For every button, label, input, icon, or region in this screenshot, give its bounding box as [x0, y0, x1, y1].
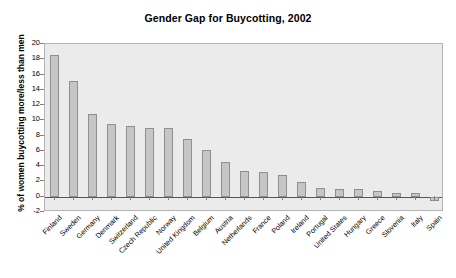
y-tick-label: 14 [10, 85, 40, 93]
y-tick-mark [40, 211, 44, 212]
y-tick-mark [40, 74, 44, 75]
bar [164, 128, 174, 197]
y-tick-mark [40, 180, 44, 181]
y-tick-label: 2 [10, 176, 40, 184]
x-tick-mark [434, 196, 435, 200]
x-tick-mark [415, 196, 416, 200]
y-tick-mark [40, 43, 44, 44]
y-tick-mark [40, 104, 44, 105]
x-tick-mark [396, 196, 397, 200]
bar [202, 150, 212, 197]
x-tick-mark [244, 196, 245, 200]
x-tick-mark [130, 196, 131, 200]
y-tick-mark [40, 150, 44, 151]
y-tick-label: 6 [10, 146, 40, 154]
x-tick-mark [54, 196, 55, 200]
chart-title: Gender Gap for Buycotting, 2002 [0, 12, 456, 24]
bar [126, 126, 136, 197]
bar [88, 114, 98, 196]
x-tick-mark [263, 196, 264, 200]
y-tick-mark [40, 119, 44, 120]
bar [69, 81, 79, 196]
y-tick-mark [40, 89, 44, 90]
bar [221, 162, 231, 197]
x-tick-mark [111, 196, 112, 200]
x-tick-mark [282, 196, 283, 200]
y-tick-label: 16 [10, 70, 40, 78]
bar [145, 128, 155, 197]
x-tick-mark [92, 196, 93, 200]
bar [107, 124, 117, 197]
x-tick-mark [225, 196, 226, 200]
plot-area [44, 43, 443, 211]
bar [259, 172, 269, 197]
x-tick-mark [339, 196, 340, 200]
y-tick-label: -2 [10, 207, 40, 215]
x-tick-mark [320, 196, 321, 200]
bar-chart: Gender Gap for Buycotting, 2002 % of wom… [0, 0, 456, 278]
bar [50, 55, 60, 197]
y-tick-label: 4 [10, 161, 40, 169]
x-tick-mark [358, 196, 359, 200]
y-tick-mark [40, 135, 44, 136]
x-tick-mark [206, 196, 207, 200]
bar [297, 182, 307, 197]
y-tick-label: 8 [10, 131, 40, 139]
x-tick-mark [187, 196, 188, 200]
bar [183, 139, 193, 196]
bar [240, 171, 250, 197]
x-tick-mark [377, 196, 378, 200]
x-tick-mark [168, 196, 169, 200]
y-tick-mark [40, 165, 44, 166]
y-tick-mark [40, 196, 44, 197]
y-tick-label: 0 [10, 192, 40, 200]
y-tick-label: 20 [10, 39, 40, 47]
y-tick-label: 18 [10, 54, 40, 62]
x-tick-mark [149, 196, 150, 200]
y-tick-label: 12 [10, 100, 40, 108]
y-tick-label: 10 [10, 115, 40, 123]
x-tick-mark [301, 196, 302, 200]
y-tick-mark [40, 58, 44, 59]
bar [278, 175, 288, 197]
x-tick-mark [73, 196, 74, 200]
